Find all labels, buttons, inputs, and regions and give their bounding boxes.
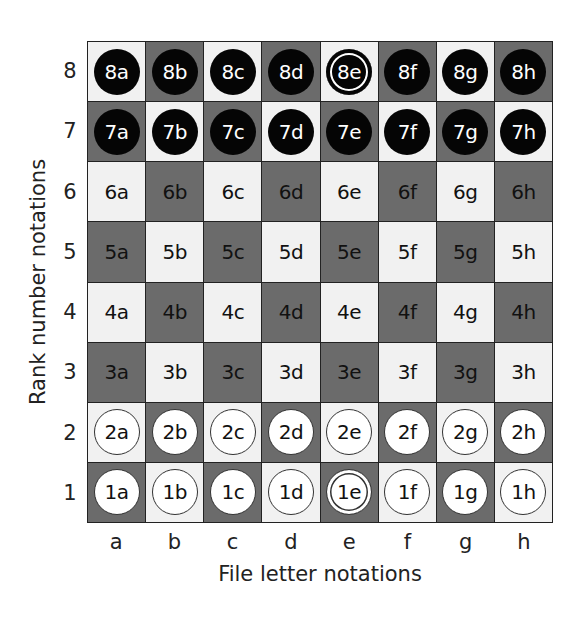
board-square: 3a <box>88 343 145 402</box>
white-piece-icon: 1c <box>210 469 256 515</box>
rank-label: 3 <box>58 342 82 402</box>
black-piece-icon: 7b <box>152 109 198 155</box>
board-square: 8e <box>321 42 378 101</box>
square-label: 4a <box>105 302 129 322</box>
board-square: 3b <box>146 343 203 402</box>
file-label: b <box>145 525 203 559</box>
square-label: 6h <box>511 182 535 202</box>
square-label: 4c <box>221 302 244 322</box>
board-square: 5e <box>321 222 378 281</box>
square-label: 5h <box>511 242 535 262</box>
file-label: g <box>437 525 495 559</box>
white-piece-icon: 1a <box>94 469 140 515</box>
board-square: 1d <box>262 463 319 522</box>
square-label: 5d <box>279 242 303 262</box>
rank-label: 5 <box>58 222 82 282</box>
board-square: 4e <box>321 283 378 342</box>
black-piece-icon: 8c <box>210 49 256 95</box>
white-king-piece-icon: 1e <box>326 469 372 515</box>
white-piece-icon: 2h <box>500 409 546 455</box>
board-square: 8d <box>262 42 319 101</box>
white-piece-icon: 1d <box>268 469 314 515</box>
square-label: 4g <box>453 302 477 322</box>
black-piece-icon: 7a <box>94 109 140 155</box>
board-square: 5h <box>495 222 552 281</box>
board-square: 7c <box>204 102 261 161</box>
file-labels: a b c d e f g h <box>87 525 553 559</box>
square-label: 3b <box>162 362 186 382</box>
board-square: 6f <box>379 162 436 221</box>
board-square: 1h <box>495 463 552 522</box>
file-label: h <box>495 525 553 559</box>
board-square: 8c <box>204 42 261 101</box>
square-label: 6g <box>453 182 477 202</box>
rank-label: 4 <box>58 282 82 342</box>
board-square: 3f <box>379 343 436 402</box>
white-piece-icon: 1b <box>152 469 198 515</box>
board-square: 6c <box>204 162 261 221</box>
rank-label: 6 <box>58 162 82 222</box>
board-square: 4b <box>146 283 203 342</box>
board-square: 8h <box>495 42 552 101</box>
board-square: 5g <box>437 222 494 281</box>
black-piece-icon: 7g <box>442 109 488 155</box>
board-square: 4f <box>379 283 436 342</box>
file-label: c <box>204 525 262 559</box>
file-label: e <box>320 525 378 559</box>
black-piece-icon: 7c <box>210 109 256 155</box>
board-square: 2c <box>204 403 261 462</box>
board-square: 8a <box>88 42 145 101</box>
white-piece-icon: 2c <box>210 409 256 455</box>
board-square: 6d <box>262 162 319 221</box>
board-square: 6e <box>321 162 378 221</box>
square-label: 3f <box>398 362 417 382</box>
square-label: 3a <box>105 362 129 382</box>
square-label: 4d <box>279 302 303 322</box>
board-square: 7f <box>379 102 436 161</box>
rank-labels: 8 7 6 5 4 3 2 1 <box>58 41 82 523</box>
square-label: 5g <box>453 242 477 262</box>
board-square: 3h <box>495 343 552 402</box>
board-square: 3e <box>321 343 378 402</box>
black-piece-icon: 7h <box>500 109 546 155</box>
black-piece-icon: 8g <box>442 49 488 95</box>
file-label: f <box>378 525 436 559</box>
square-label: 5b <box>162 242 186 262</box>
board-square: 6h <box>495 162 552 221</box>
board-square: 3c <box>204 343 261 402</box>
square-label: 4f <box>398 302 417 322</box>
square-label: 6c <box>221 182 244 202</box>
file-label: a <box>87 525 145 559</box>
white-piece-icon: 1f <box>384 469 430 515</box>
board-square: 6b <box>146 162 203 221</box>
square-label: 3g <box>453 362 477 382</box>
board-square: 1g <box>437 463 494 522</box>
square-label: 3c <box>221 362 244 382</box>
board-square: 2e <box>321 403 378 462</box>
white-piece-icon: 2g <box>442 409 488 455</box>
square-label: 5e <box>337 242 361 262</box>
square-label: 3e <box>337 362 361 382</box>
white-piece-icon: 2a <box>94 409 140 455</box>
board-square: 6a <box>88 162 145 221</box>
x-axis-title: File letter notations <box>87 562 553 586</box>
square-label: 6b <box>162 182 186 202</box>
rank-label: 8 <box>58 41 82 101</box>
board-square: 2f <box>379 403 436 462</box>
black-piece-icon: 7d <box>268 109 314 155</box>
board-square: 5b <box>146 222 203 281</box>
black-piece-icon: 8f <box>384 49 430 95</box>
y-axis-title: Rank number notations <box>26 132 50 432</box>
board-square: 2d <box>262 403 319 462</box>
black-piece-icon: 7e <box>326 109 372 155</box>
rank-label: 2 <box>58 403 82 463</box>
board-square: 2g <box>437 403 494 462</box>
white-piece-icon: 1h <box>500 469 546 515</box>
board-square: 2h <box>495 403 552 462</box>
square-label: 6f <box>398 182 417 202</box>
white-piece-icon: 1g <box>442 469 488 515</box>
white-piece-icon: 2f <box>384 409 430 455</box>
black-king-piece-icon: 8e <box>326 49 372 95</box>
black-piece-icon: 8d <box>268 49 314 95</box>
white-piece-icon: 2b <box>152 409 198 455</box>
